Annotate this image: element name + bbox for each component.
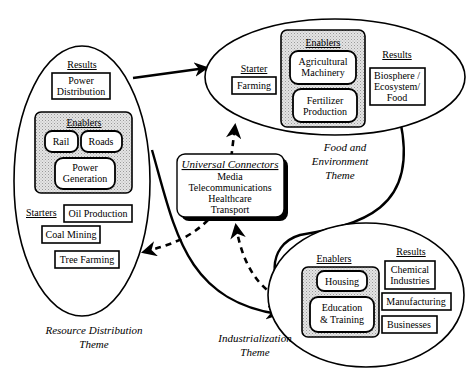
agricultural-machinery-label-1: Agricultural bbox=[299, 56, 348, 67]
chemical-industries-label-2: Industries bbox=[390, 275, 430, 286]
industrial-theme-title-2: Theme bbox=[240, 346, 269, 358]
biosphere-label-3: Food bbox=[387, 92, 408, 103]
education-training-label-1: Education bbox=[322, 302, 363, 313]
power-distribution-label-2: Distribution bbox=[57, 86, 105, 97]
food-theme-title-3: Theme bbox=[325, 169, 354, 181]
chemical-industries-label-1: Chemical bbox=[391, 264, 430, 275]
connectors-heading: Universal Connectors bbox=[182, 158, 279, 170]
resource-enablers-heading: Enablers bbox=[67, 117, 102, 128]
resource-distribution-theme: Results Power Distribution Enablers Rail… bbox=[14, 46, 150, 350]
power-generation-label-1: Power bbox=[72, 162, 98, 173]
universal-connectors: Universal Connectors Media Telecommunica… bbox=[177, 154, 288, 221]
connector-telecommunications: Telecommunications bbox=[188, 182, 271, 193]
businesses-label: Businesses bbox=[387, 319, 431, 330]
food-theme-title-1: Food and bbox=[323, 141, 367, 153]
housing-label: Housing bbox=[325, 276, 359, 287]
coal-mining-label: Coal Mining bbox=[46, 229, 97, 240]
farming-label: Farming bbox=[237, 80, 271, 91]
resource-theme-title-2: Theme bbox=[79, 338, 108, 350]
connector-media: Media bbox=[217, 171, 243, 182]
food-results-heading: Results bbox=[382, 49, 412, 60]
fertilizer-production-label-2: Production bbox=[303, 106, 347, 117]
oil-production-label: Oil Production bbox=[68, 208, 127, 219]
industrial-results-heading: Results bbox=[396, 246, 426, 257]
connector-transport: Transport bbox=[211, 204, 250, 215]
resource-starters-heading: Starters bbox=[26, 207, 57, 218]
food-starter-heading: Starter bbox=[241, 63, 268, 74]
agricultural-machinery-label-2: Machinery bbox=[301, 67, 344, 78]
roads-label: Roads bbox=[89, 136, 114, 147]
theme-diagram: Results Power Distribution Enablers Rail… bbox=[0, 0, 467, 381]
industrialization-theme: Enablers Housing Education & Training Re… bbox=[217, 223, 464, 367]
power-generation-label-2: Generation bbox=[63, 173, 107, 184]
industrial-theme-title-1: Industrialization bbox=[217, 332, 292, 344]
arrow-resource-to-food bbox=[133, 68, 206, 78]
fertilizer-production-label-1: Fertilizer bbox=[307, 95, 344, 106]
resource-theme-title-1: Resource Distribution bbox=[44, 324, 143, 336]
food-enablers-heading: Enablers bbox=[306, 37, 341, 48]
tree-farming-label: Tree Farming bbox=[60, 254, 114, 265]
connector-healthcare: Healthcare bbox=[208, 193, 252, 204]
dashed-arrow-to-resource bbox=[144, 220, 208, 252]
manufacturing-label: Manufacturing bbox=[386, 296, 445, 307]
education-training-label-2: & Training bbox=[320, 314, 364, 325]
industrial-enablers-heading: Enablers bbox=[317, 253, 352, 264]
biosphere-label-2: Ecosystem/ bbox=[374, 81, 420, 92]
food-theme-title-2: Environment bbox=[311, 155, 369, 167]
rail-label: Rail bbox=[53, 136, 70, 147]
resource-results-heading: Results bbox=[67, 59, 97, 70]
power-distribution-label-1: Power bbox=[68, 75, 94, 86]
biosphere-label-1: Biosphere / bbox=[374, 70, 420, 81]
